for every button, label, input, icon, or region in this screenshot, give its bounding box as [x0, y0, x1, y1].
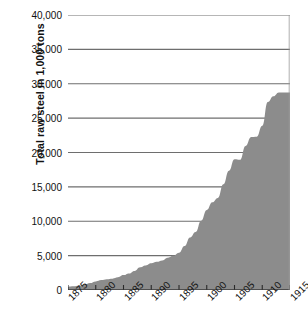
- x-axis-tick-label: 1905: [233, 279, 257, 303]
- x-axis-tick-label: 1885: [122, 279, 146, 303]
- x-axis-tick-label: 1895: [177, 279, 201, 303]
- x-axis-tick-label: 1880: [94, 279, 118, 303]
- x-axis-tick-label: 1875: [66, 279, 90, 303]
- x-axis-tick-label: 1910: [260, 279, 284, 303]
- x-axis-tick-label: 1915: [288, 279, 308, 303]
- x-axis-tick-label: 1900: [205, 279, 229, 303]
- chart-container: Total raw steel in 1,000 tons 40,00035,0…: [0, 0, 308, 331]
- x-axis-tick-labels: 187518801885189018951900190519101915: [0, 0, 308, 331]
- x-axis-tick-label: 1890: [149, 279, 173, 303]
